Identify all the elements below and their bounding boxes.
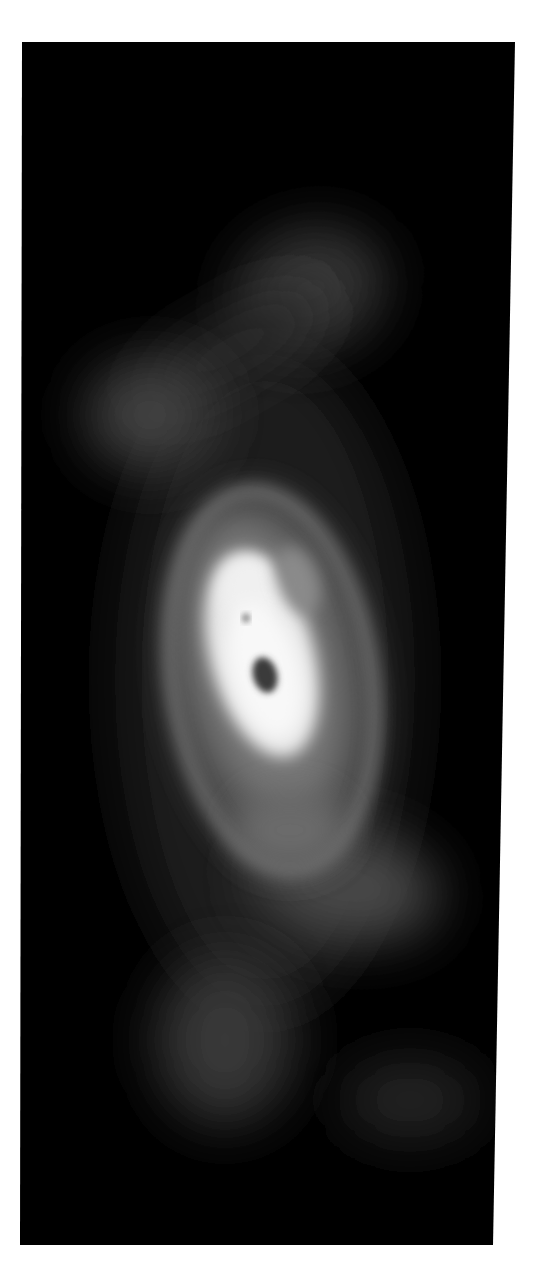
halo-lower-tail [235, 790, 345, 870]
core-small-dot [243, 614, 249, 622]
upper-left-lobe [85, 360, 215, 470]
nebula-image [0, 0, 542, 1287]
bottom-right-lobe [340, 1060, 480, 1140]
lower-left-lobe [155, 955, 295, 1125]
